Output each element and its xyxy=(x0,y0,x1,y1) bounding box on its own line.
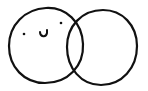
left-circle xyxy=(9,8,83,83)
smile-mouth-icon xyxy=(40,30,47,36)
left-eye-icon xyxy=(23,33,26,36)
right-circle xyxy=(67,10,137,85)
drawing-canvas: Two overlapping hand-drawn circles; left… xyxy=(0,0,148,91)
right-eye-icon xyxy=(60,22,63,25)
venn-drawing xyxy=(0,0,148,91)
